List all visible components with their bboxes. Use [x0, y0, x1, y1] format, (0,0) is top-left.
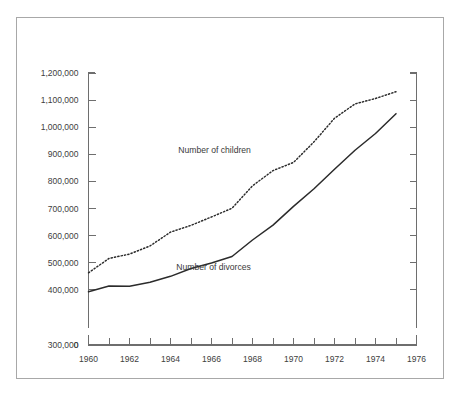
- y-tick-label-800000: 800,000: [48, 176, 79, 186]
- x-tick-label-1972: 1972: [325, 354, 344, 364]
- x-tick-label-1964: 1964: [161, 354, 180, 364]
- y-tick-label-600000: 600,000: [48, 231, 79, 241]
- y-tick-label-500000: 500,000: [48, 258, 79, 268]
- x-tick-label-1968: 1968: [243, 354, 262, 364]
- series-label-number-of-children: Number of children: [178, 145, 251, 155]
- y-tick-label-1100000: 1,100,000: [41, 95, 79, 105]
- x-tick-label-1966: 1966: [202, 354, 221, 364]
- y-tick-label-700000: 700,000: [48, 204, 79, 214]
- x-tick-label-1962: 1962: [120, 354, 139, 364]
- x-tick-label-1970: 1970: [284, 354, 303, 364]
- x-tick-label-1960: 1960: [79, 354, 98, 364]
- chart-figure: 0300,000400,000500,000600,000700,000800,…: [0, 0, 462, 406]
- x-tick-label-1976: 1976: [407, 354, 426, 364]
- line-chart-plot: 0300,000400,000500,000600,000700,000800,…: [0, 0, 462, 406]
- y-tick-label-300000: 300,000: [48, 340, 79, 350]
- y-tick-label-1000000: 1,000,000: [41, 122, 79, 132]
- x-tick-label-1974: 1974: [366, 354, 385, 364]
- series-line-number-of-children: [89, 92, 397, 273]
- series-label-number-of-divorces: Number of divorces: [176, 262, 251, 272]
- y-tick-label-900000: 900,000: [48, 149, 79, 159]
- y-tick-label-1200000: 1,200,000: [41, 68, 79, 78]
- y-tick-label-400000: 400,000: [48, 285, 79, 295]
